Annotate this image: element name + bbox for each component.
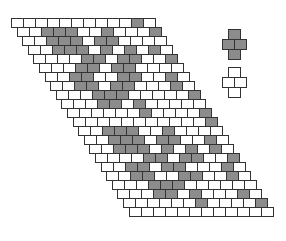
grid-row — [50, 81, 194, 90]
grid-row — [123, 198, 267, 207]
grid-row — [78, 126, 222, 135]
grid-row — [95, 153, 239, 162]
grid-row — [84, 135, 228, 144]
grid-row — [112, 180, 256, 189]
grid-row — [17, 27, 161, 36]
grid-row — [106, 171, 250, 180]
grid-row — [33, 54, 177, 63]
brick-grid — [0, 0, 286, 241]
grid-row — [22, 36, 166, 45]
grid-row — [73, 117, 217, 126]
grid-row — [45, 72, 189, 81]
grid-row — [117, 189, 261, 198]
grid-row — [129, 207, 273, 216]
grid-row — [28, 45, 172, 54]
legend-cell — [228, 87, 241, 98]
empty-cell — [261, 207, 274, 217]
grid-row — [67, 108, 211, 117]
grid-row — [39, 63, 183, 72]
grid-row — [11, 18, 155, 27]
grid-row — [89, 144, 233, 153]
grid-row — [61, 99, 205, 108]
grid-row — [56, 90, 200, 99]
legend-cell — [228, 49, 241, 60]
grid-row — [101, 162, 245, 171]
